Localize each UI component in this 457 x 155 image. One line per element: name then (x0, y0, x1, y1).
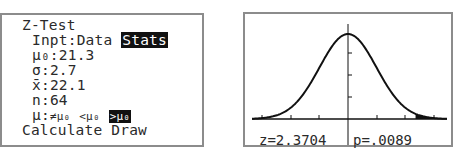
alternative-label: μ: (32, 107, 50, 123)
y-axis-ticks (348, 53, 352, 97)
z-test-graph-screen: z=2.3704 p=.0089 (243, 12, 453, 147)
input-option-data[interactable]: Data (77, 32, 113, 48)
n-row: n:64 (32, 93, 68, 108)
sigma-label: σ: (32, 62, 50, 78)
calculate-button[interactable]: Calculate (22, 122, 102, 138)
xbar-row: x̄:22.1 (32, 78, 86, 93)
input-option-stats[interactable]: Stats (121, 32, 168, 48)
normal-curve (252, 34, 447, 119)
input-row: Inpt:Data Stats (32, 33, 168, 48)
mu0-value[interactable]: 21.3 (59, 47, 95, 63)
sigma-value[interactable]: 2.7 (50, 62, 77, 78)
actions-row: Calculate Draw (22, 123, 147, 138)
p-value-label: p=.0089 (353, 132, 412, 148)
xbar-label: x̄: (32, 77, 50, 93)
z-test-input-screen: Z-Test Inpt:Data Stats μ₀:21.3 σ:2.7 x̄:… (0, 13, 204, 147)
mu0-row: μ₀:21.3 (32, 48, 95, 63)
input-label: Inpt: (32, 32, 77, 48)
n-label: n: (32, 92, 50, 108)
xbar-value[interactable]: 22.1 (50, 77, 86, 93)
z-statistic-label: z=2.3704 (259, 132, 326, 148)
screen-title: Z-Test (22, 18, 76, 33)
draw-button[interactable]: Draw (111, 122, 147, 138)
mu0-label: μ₀: (32, 47, 59, 63)
normal-curve-graph (245, 14, 451, 145)
n-value[interactable]: 64 (50, 92, 68, 108)
sigma-row: σ:2.7 (32, 63, 77, 78)
